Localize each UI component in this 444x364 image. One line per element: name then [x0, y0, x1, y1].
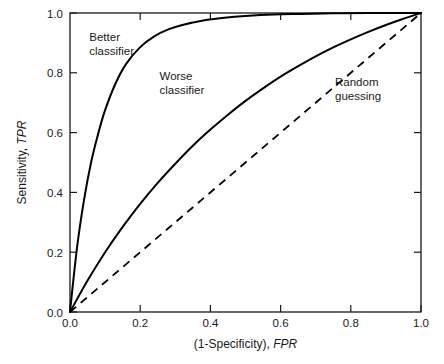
x-axis-ticks	[70, 305, 421, 312]
x-tick-label-1: 0.2	[132, 317, 148, 329]
y-tick-label-5: 1.0	[47, 8, 63, 20]
x-axis-title-plain: (1-Specificity),	[194, 337, 273, 351]
y-tick-label-0: 0.0	[47, 307, 63, 319]
curve-random-guessing	[70, 13, 421, 312]
x-tick-label-0: 0.0	[62, 317, 78, 329]
annotation-better-line2: classifier	[89, 45, 134, 57]
y-axis-ticks-right	[414, 73, 421, 252]
annotation-random-line2: guessing	[335, 90, 381, 102]
roc-curve-figure: 0.0 0.2 0.4 0.6 0.8 1.0 0.0 0.2 0.4 0.6 …	[0, 0, 444, 364]
x-tick-label-3: 0.6	[273, 317, 289, 329]
annotation-better-line1: Better	[89, 31, 120, 43]
y-tick-label-3: 0.6	[47, 127, 63, 139]
x-axis-title-italic: FPR	[273, 337, 297, 351]
y-axis-title: Sensitivity, TPR	[15, 120, 29, 204]
x-tick-label-4: 0.8	[343, 317, 359, 329]
annotation-random-line1: Random	[335, 76, 378, 88]
x-tick-label-2: 0.4	[202, 317, 219, 329]
x-axis-title: (1-Specificity), FPR	[194, 337, 298, 351]
y-tick-label-1: 0.2	[47, 247, 63, 259]
y-axis-title-italic: TPR	[15, 120, 29, 144]
y-axis-title-plain: Sensitivity,	[15, 145, 29, 205]
annotation-worse-line1: Worse	[160, 70, 193, 82]
roc-chart-svg: 0.0 0.2 0.4 0.6 0.8 1.0 0.0 0.2 0.4 0.6 …	[0, 0, 444, 364]
y-tick-label-4: 0.8	[47, 67, 63, 79]
y-axis-ticks	[70, 13, 77, 312]
annotation-worse-line2: classifier	[160, 84, 205, 96]
x-tick-label-5: 1.0	[413, 317, 429, 329]
y-tick-label-2: 0.4	[47, 187, 64, 199]
